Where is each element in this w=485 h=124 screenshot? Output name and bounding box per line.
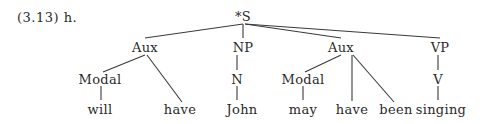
leaf-been: been [379, 102, 412, 117]
node-np: NP [233, 40, 254, 55]
leaf-will: will [88, 102, 113, 117]
leaf-have-1: have [164, 102, 196, 117]
leaf-may: may [289, 102, 317, 117]
node-aux-2: Aux [328, 40, 354, 55]
node-root-s: *S [235, 9, 251, 24]
node-vp: VP [431, 40, 450, 55]
leaf-john: John [227, 102, 258, 117]
leaf-have-2: have [336, 102, 368, 117]
node-v: V [433, 72, 443, 87]
node-aux-1: Aux [132, 40, 158, 55]
node-modal-1: Modal [79, 72, 122, 87]
node-modal-2: Modal [282, 72, 325, 87]
example-number-label: (3.13) h. [17, 10, 77, 25]
node-n: N [231, 72, 243, 87]
leaf-singing: singing [416, 102, 466, 117]
